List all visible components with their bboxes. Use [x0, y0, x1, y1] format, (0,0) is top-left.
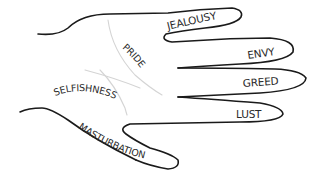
palm-label-pride: PRIDE: [121, 41, 148, 69]
palm-label-selfishness: SELFISHNESS: [52, 82, 119, 101]
finger-label-lust: LUST: [236, 108, 262, 120]
hand-outline-ring: [178, 68, 306, 97]
hand-drawing: JEALOUSY ENVY GREED LUST MASTURBATION PR…: [0, 0, 322, 179]
finger-label-envy: ENVY: [247, 45, 277, 61]
finger-label-greed: GREED: [242, 74, 279, 89]
hand-diagram: JEALOUSY ENVY GREED LUST MASTURBATION PR…: [0, 0, 322, 179]
